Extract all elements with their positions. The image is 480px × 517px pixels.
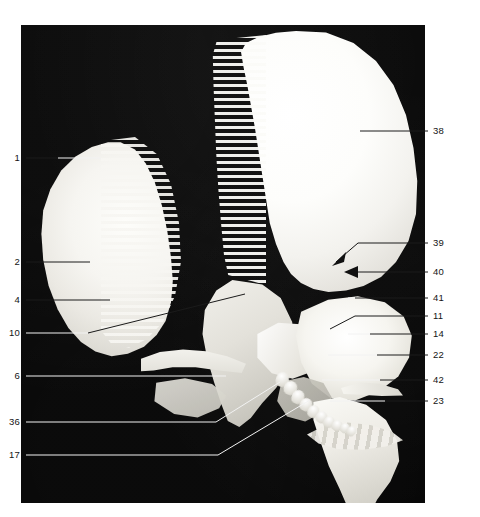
figure-page: 1 2 4 10 6 36 17 38 39 40 41 11 14 22 42… <box>0 0 480 517</box>
skull-photograph <box>21 25 425 503</box>
label-1: 1 <box>0 153 20 163</box>
label-10: 10 <box>0 328 20 338</box>
label-14: 14 <box>433 329 444 339</box>
label-2: 2 <box>0 257 20 267</box>
label-41: 41 <box>433 293 444 303</box>
label-6: 6 <box>0 371 20 381</box>
label-4: 4 <box>0 295 20 305</box>
label-23: 23 <box>433 396 444 406</box>
label-38: 38 <box>433 126 444 136</box>
label-36: 36 <box>0 417 20 427</box>
label-42: 42 <box>433 375 444 385</box>
label-39: 39 <box>433 238 444 248</box>
label-11: 11 <box>433 311 443 321</box>
label-22: 22 <box>433 350 444 360</box>
label-17: 17 <box>0 450 20 460</box>
label-40: 40 <box>433 267 444 277</box>
